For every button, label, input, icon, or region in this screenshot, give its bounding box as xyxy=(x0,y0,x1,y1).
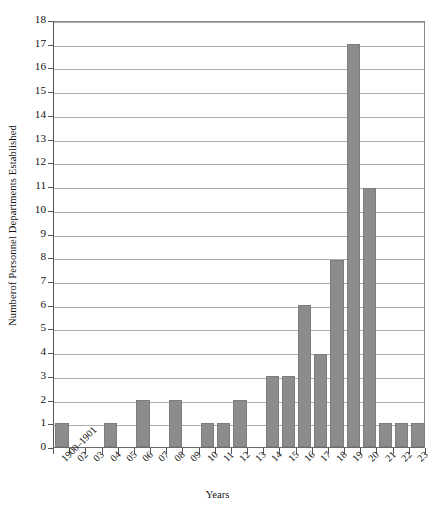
bar xyxy=(330,260,343,447)
x-axis-tick-label: 20 xyxy=(366,449,381,464)
x-axis-tick-label: 03 xyxy=(91,449,106,464)
x-axis-tick-label: 16 xyxy=(302,449,317,464)
bar xyxy=(411,423,424,447)
x-axis-tick-label: 22 xyxy=(399,449,414,464)
bar xyxy=(136,400,149,447)
bar xyxy=(363,188,376,447)
gridline xyxy=(54,141,424,142)
x-axis-tick-label: 04 xyxy=(108,449,123,464)
x-axis-tick-label: 14 xyxy=(269,449,284,464)
x-axis-tick-label: 11 xyxy=(221,449,236,464)
bar xyxy=(104,423,117,447)
bar xyxy=(201,423,214,447)
y-axis-tick-label: 3 xyxy=(40,369,46,381)
gridline xyxy=(54,164,424,165)
y-axis-tick-label: 12 xyxy=(35,155,46,167)
y-axis-tick-label: 10 xyxy=(35,203,46,215)
y-axis-tick-label: 6 xyxy=(40,298,46,310)
x-axis-tick-label: 15 xyxy=(286,449,301,464)
y-axis-tick-label: 9 xyxy=(40,227,46,239)
gridline xyxy=(54,22,424,23)
y-axis-tick-label: 7 xyxy=(40,274,46,286)
x-axis-tick-label: 13 xyxy=(253,449,268,464)
bar xyxy=(347,44,360,447)
bar xyxy=(266,376,279,447)
y-axis-tick-label: 13 xyxy=(35,132,46,144)
bar xyxy=(282,376,295,447)
x-axis-tick-label: 10 xyxy=(205,449,220,464)
y-axis-tick-label: 18 xyxy=(35,13,46,25)
x-axis-tick-label: 06 xyxy=(140,449,155,464)
y-axis-tick-label: 0 xyxy=(40,440,46,452)
y-axis-tick-label: 14 xyxy=(35,108,46,120)
y-axis-tick-label: 8 xyxy=(40,250,46,262)
bar xyxy=(395,423,408,447)
y-axis-tick-label: 16 xyxy=(35,60,46,72)
bar xyxy=(55,423,68,447)
x-axis-tick-label: 19 xyxy=(350,449,365,464)
gridline xyxy=(54,69,424,70)
y-axis-title: Numberof Personnel Departments Establish… xyxy=(0,0,24,450)
bar xyxy=(314,354,327,447)
x-axis-tick-label: 21 xyxy=(383,449,398,464)
bar xyxy=(217,423,230,447)
x-axis-tick-label: 18 xyxy=(334,449,349,464)
bar xyxy=(169,400,182,447)
y-axis-tick-label: 1 xyxy=(40,416,46,428)
x-axis-tick-label: 07 xyxy=(156,449,171,464)
plot-area xyxy=(53,21,425,448)
y-axis-tick-label: 17 xyxy=(35,37,46,49)
x-axis-tick-label: 09 xyxy=(188,449,203,464)
y-axis-title-text: Numberof Personnel Departments Establish… xyxy=(7,125,18,326)
x-axis-tick-label: 05 xyxy=(124,449,139,464)
gridline xyxy=(54,46,424,47)
gridline xyxy=(54,117,424,118)
y-axis-tick-label: 4 xyxy=(40,345,46,357)
bar xyxy=(379,423,392,447)
bar xyxy=(233,400,246,447)
y-axis-tick-label: 5 xyxy=(40,321,46,333)
x-axis-tick-label: 08 xyxy=(172,449,187,464)
y-axis-tick-label: 11 xyxy=(35,179,46,191)
bar xyxy=(298,305,311,447)
y-axis-tick-label: 15 xyxy=(35,84,46,96)
x-axis-tick-label: 23 xyxy=(415,449,430,464)
x-axis-tick-label: 17 xyxy=(318,449,333,464)
bar-chart-figure: Numberof Personnel Departments Establish… xyxy=(0,0,435,515)
y-axis-tick-label: 2 xyxy=(40,393,46,405)
x-axis-tick-mark xyxy=(53,448,54,454)
x-axis-tick-label: 12 xyxy=(237,449,252,464)
x-axis-title: Years xyxy=(0,489,435,500)
gridline xyxy=(54,93,424,94)
